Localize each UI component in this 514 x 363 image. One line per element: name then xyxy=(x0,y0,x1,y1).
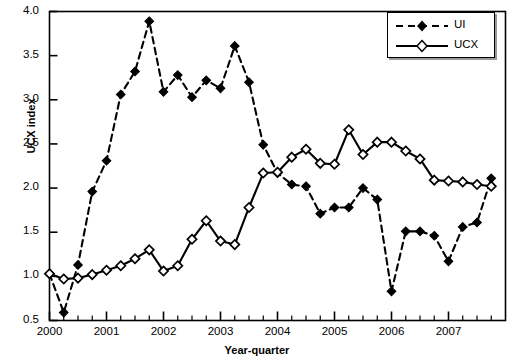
y-tick-label: 2.5 xyxy=(5,136,39,148)
y-tick-label: 3.5 xyxy=(5,48,39,60)
y-tick-label: 4.0 xyxy=(5,4,39,16)
x-tick-label: 2002 xyxy=(141,325,187,337)
legend-item-ucx: UCX xyxy=(394,37,490,55)
chart-container: UCX index Year-quarter 0.51.01.52.02.53.… xyxy=(0,0,514,363)
x-tick-label: 2003 xyxy=(198,325,244,337)
y-axis-title: UCX index xyxy=(25,71,37,181)
x-tick-label: 2005 xyxy=(312,325,358,337)
legend-label-ucx: UCX xyxy=(454,38,478,50)
y-tick-label: 3.0 xyxy=(5,92,39,104)
x-axis-title: Year-quarter xyxy=(0,344,514,356)
legend-item-ui: UI xyxy=(394,17,490,35)
x-tick-label: 2007 xyxy=(426,325,472,337)
y-tick-label: 0.5 xyxy=(5,313,39,325)
x-tick-label: 2000 xyxy=(27,325,73,337)
legend-swatch-ucx xyxy=(394,37,450,55)
chart-legend: UI UCX xyxy=(387,12,495,58)
y-tick-label: 1.0 xyxy=(5,268,39,280)
x-tick-label: 2006 xyxy=(369,325,415,337)
data-series xyxy=(45,17,496,317)
x-tick-label: 2004 xyxy=(255,325,301,337)
legend-label-ui: UI xyxy=(454,18,466,30)
y-tick-label: 2.0 xyxy=(5,180,39,192)
legend-swatch-ui xyxy=(394,17,450,35)
y-tick-label: 1.5 xyxy=(5,224,39,236)
x-tick-label: 2001 xyxy=(84,325,130,337)
